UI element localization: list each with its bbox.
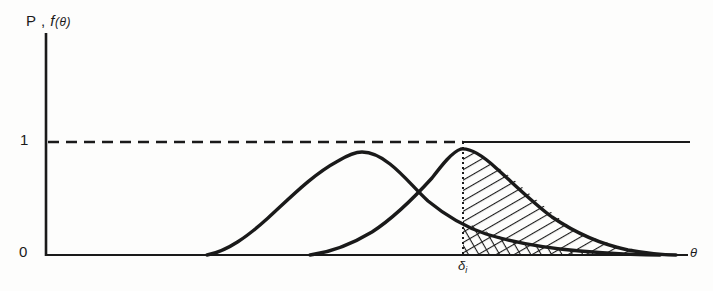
y-axis-label-comma: , xyxy=(36,12,50,29)
figure-container: P , f(θ) 1 0 θ δi xyxy=(0,0,713,291)
x-axis-label: θ xyxy=(690,245,697,260)
y-tick-label-zero: 0 xyxy=(19,243,27,260)
y-axis-label-theta: (θ) xyxy=(55,15,71,29)
figure-canvas xyxy=(0,0,713,291)
y-axis-label: P , f(θ) xyxy=(26,12,71,29)
threshold-label-subscript: i xyxy=(465,265,467,275)
threshold-label: δi xyxy=(458,258,467,275)
y-axis-label-p: P xyxy=(26,12,36,29)
y-tick-label-one: 1 xyxy=(20,131,28,148)
